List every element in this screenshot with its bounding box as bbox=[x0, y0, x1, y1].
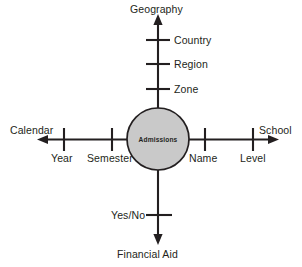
axis-title-financial-aid: Financial Aid bbox=[117, 249, 178, 260]
hub-label: Admissions bbox=[128, 136, 188, 143]
tick-label-name: Name bbox=[189, 153, 217, 164]
tick-label-yes-no: Yes/No bbox=[111, 210, 145, 221]
axis-title-geography: Geography bbox=[130, 4, 183, 15]
axis-title-calendar: Calendar bbox=[10, 125, 53, 136]
arrowhead-down-icon bbox=[153, 234, 162, 245]
tick-label-country: Country bbox=[174, 35, 211, 46]
arrowhead-right-icon bbox=[268, 135, 279, 144]
arrowhead-up-icon bbox=[153, 14, 162, 25]
tick-label-zone: Zone bbox=[174, 84, 198, 95]
axis-title-school: School bbox=[259, 125, 292, 136]
arrowhead-left-icon bbox=[37, 135, 48, 144]
tick-label-region: Region bbox=[174, 59, 208, 70]
tick-label-semester: Semester bbox=[87, 153, 133, 164]
star-schema-diagram: Geography Calendar School Financial Aid … bbox=[0, 0, 302, 267]
tick-label-year: Year bbox=[51, 153, 73, 164]
tick-label-level: Level bbox=[240, 153, 266, 164]
